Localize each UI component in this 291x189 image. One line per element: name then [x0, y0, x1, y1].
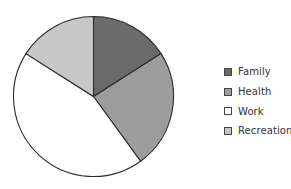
legend-swatch-work	[224, 107, 232, 115]
legend-label: Family	[238, 66, 271, 77]
legend-swatch-family	[224, 68, 232, 76]
legend-label: Recreation	[238, 125, 291, 136]
legend-label: Health	[238, 86, 271, 97]
legend-item-health: Health	[224, 82, 291, 102]
legend: Family Health Work Recreation	[224, 62, 291, 141]
legend-swatch-recreation	[224, 127, 232, 135]
pie-chart	[0, 0, 200, 189]
legend-item-family: Family	[224, 62, 291, 82]
legend-label: Work	[238, 106, 264, 117]
legend-item-work: Work	[224, 101, 291, 121]
legend-item-recreation: Recreation	[224, 121, 291, 141]
legend-swatch-health	[224, 88, 232, 96]
